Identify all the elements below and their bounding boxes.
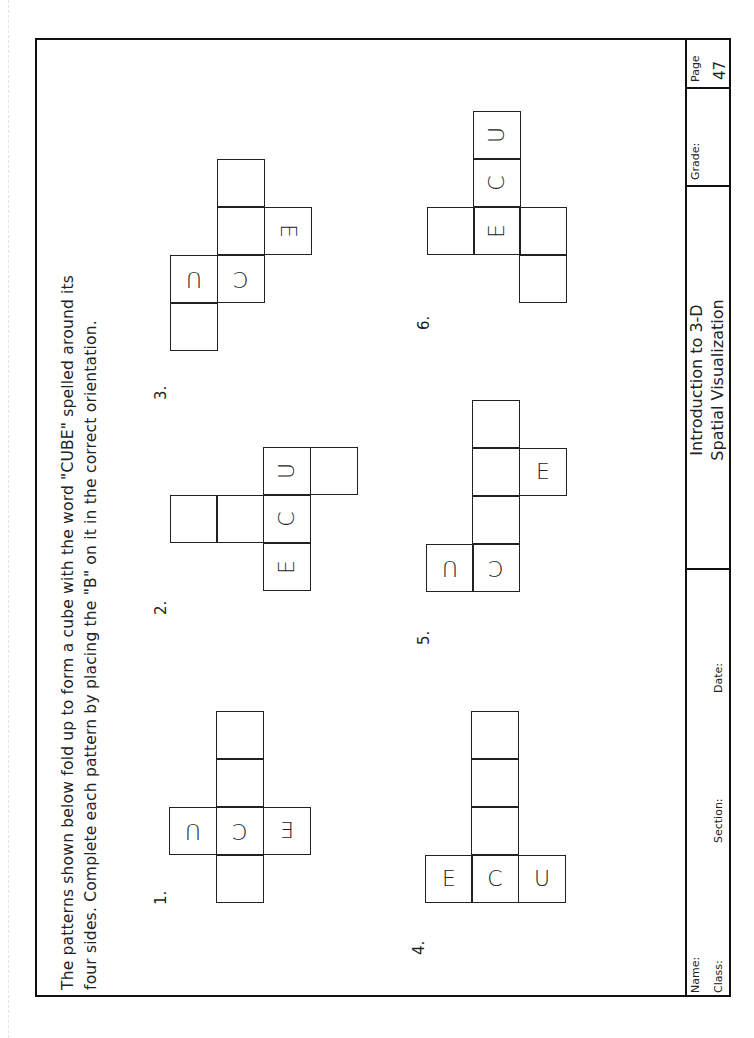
letter-u: U <box>276 463 298 479</box>
pattern-3-cell-c: C <box>217 255 265 303</box>
pattern-1-cell-empty[interactable] <box>216 711 264 759</box>
section-field[interactable]: Section: <box>712 798 725 843</box>
letter-u: U <box>442 557 458 579</box>
letter-c: C <box>276 511 298 526</box>
class-field[interactable]: Class: <box>712 960 725 993</box>
pattern-6-cell-c: C <box>473 159 521 207</box>
course-title-line-2: Spatial Visualization <box>707 285 728 475</box>
pattern-5-number: 5. <box>415 631 433 645</box>
pattern-3-cell-e: E <box>264 207 312 255</box>
pattern-5-cell-empty[interactable] <box>472 448 520 496</box>
pattern-6-cell-empty[interactable] <box>427 207 475 255</box>
letter-u: U <box>185 820 201 842</box>
pattern-5-cell-e: E <box>519 448 567 496</box>
title-block-divider-grade <box>685 185 731 187</box>
letter-u: U <box>486 127 508 143</box>
letter-e: E <box>276 560 298 574</box>
pattern-1-number: 1. <box>152 891 170 905</box>
pattern-4-number: 4. <box>410 941 428 955</box>
pattern-4-cell-empty[interactable] <box>471 711 519 759</box>
pattern-5-cell-empty[interactable] <box>472 400 520 448</box>
title-block-divider-title <box>685 568 731 570</box>
pattern-5-cell-c: C <box>472 544 520 592</box>
pattern-1-cell-c: C <box>216 807 264 855</box>
pattern-2-cell-empty[interactable] <box>310 447 358 495</box>
page-number: 47 <box>711 61 729 80</box>
pattern-4-cell-u: U <box>518 855 566 903</box>
pattern-2-cell-empty[interactable] <box>216 495 264 543</box>
pattern-3-cell-empty[interactable] <box>217 159 265 207</box>
grade-field[interactable]: Grade: <box>689 143 702 180</box>
pattern-1-cell-u: U <box>169 807 217 855</box>
date-field[interactable]: Date: <box>712 663 725 693</box>
letter-u: U <box>534 868 550 890</box>
name-field[interactable]: Name: <box>689 957 702 993</box>
pattern-3-cell-empty[interactable] <box>170 303 218 351</box>
letter-c: C <box>232 820 247 842</box>
letter-e: E <box>277 224 299 238</box>
worksheet-frame <box>35 38 731 997</box>
letter-u: U <box>186 268 202 290</box>
pattern-4-cell-e: E <box>425 855 473 903</box>
letter-e: E <box>280 820 294 842</box>
pattern-2-cell-e: E <box>263 543 311 591</box>
letter-c: C <box>488 557 503 579</box>
pattern-6-cell-u: U <box>473 111 521 159</box>
pattern-6-cell-empty[interactable] <box>519 255 567 303</box>
letter-c: C <box>233 268 248 290</box>
pattern-1-cell-e: E <box>263 807 311 855</box>
pattern-6-number: 6. <box>415 316 433 330</box>
instructions: The patterns shown below fold up to form… <box>57 275 103 990</box>
title-block-divider-page <box>685 87 731 89</box>
pattern-1-cell-empty[interactable] <box>216 759 264 807</box>
pattern-4-cell-empty[interactable] <box>471 759 519 807</box>
pattern-1-cell-empty[interactable] <box>216 855 264 903</box>
letter-e: E <box>536 461 550 483</box>
pattern-6-cell-empty[interactable] <box>519 207 567 255</box>
instructions-line-1: The patterns shown below fold up to form… <box>57 275 80 990</box>
pattern-5-cell-u: U <box>426 544 474 592</box>
pattern-4-cell-empty[interactable] <box>471 807 519 855</box>
pattern-2-cell-u: U <box>263 447 311 495</box>
course-title: Introduction to 3-D Spatial Visualizatio… <box>686 285 728 475</box>
page-label: Page <box>689 55 702 82</box>
pattern-2-cell-c: C <box>263 495 311 543</box>
page-margin-guide <box>8 0 9 1038</box>
instructions-line-2: four sides. Complete each pattern by pla… <box>80 275 103 990</box>
pattern-4-cell-c: C <box>471 855 519 903</box>
pattern-3-cell-empty[interactable] <box>217 207 265 255</box>
pattern-2-number: 2. <box>152 601 170 615</box>
pattern-6-cell-e: E <box>473 207 521 255</box>
pattern-3-cell-u: U <box>170 255 218 303</box>
title-block-border <box>685 38 687 997</box>
letter-e: E <box>486 224 508 238</box>
pattern-3-number: 3. <box>152 386 170 400</box>
letter-c: C <box>487 868 502 890</box>
pattern-2-cell-empty[interactable] <box>170 495 218 543</box>
pattern-5-cell-empty[interactable] <box>472 496 520 544</box>
course-title-line-1: Introduction to 3-D <box>686 285 707 475</box>
letter-c: C <box>486 175 508 190</box>
letter-e: E <box>442 868 456 890</box>
